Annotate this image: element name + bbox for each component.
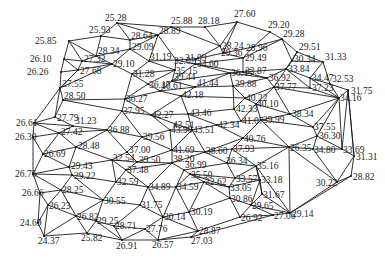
elevation-label: 29.65 xyxy=(252,201,274,211)
mesh-edge xyxy=(69,36,101,41)
elevation-label: 39.88 xyxy=(235,79,257,89)
elevation-label: 36.45 xyxy=(231,68,253,78)
elevation-label: 25.93 xyxy=(89,25,111,35)
mesh-edge xyxy=(61,70,78,72)
elevation-label: 39.99 xyxy=(263,115,285,125)
elevation-label: 25.82 xyxy=(81,233,103,243)
elevation-label: 27.32 xyxy=(84,54,106,64)
mesh-node xyxy=(266,77,268,79)
mesh-node xyxy=(129,48,131,50)
mesh-edge xyxy=(160,91,181,96)
mesh-node xyxy=(204,26,206,28)
mesh-node xyxy=(291,60,293,62)
elevation-label: 40.76 xyxy=(244,134,266,144)
elevation-label: 29.49 xyxy=(245,53,267,63)
elevation-label: 29.28 xyxy=(283,29,305,39)
mesh-node xyxy=(75,146,77,148)
mesh-node xyxy=(68,166,70,168)
mesh-edge xyxy=(101,36,130,40)
mesh-edge xyxy=(172,163,184,170)
elevation-label: 33.05 xyxy=(230,183,252,193)
elevation-label: 37.48 xyxy=(127,165,149,175)
elevation-label: 26.23 xyxy=(49,201,71,211)
elevation-label: 26.92 xyxy=(241,213,263,223)
mesh-edge xyxy=(237,22,270,32)
mesh-node xyxy=(188,211,190,213)
elevation-label: 25.88 xyxy=(171,16,193,26)
mesh-edge xyxy=(270,32,282,39)
elevation-label: 28.89 xyxy=(159,26,181,36)
elevation-label: 32.59 xyxy=(117,177,139,187)
mesh-node xyxy=(269,31,271,33)
elevation-label: 26.76 xyxy=(15,169,37,179)
elevation-label: 25.28 xyxy=(105,13,127,23)
elevation-label: 31.28 xyxy=(133,69,155,79)
elevation-label: 28.64 xyxy=(131,31,153,41)
mesh-edge xyxy=(282,39,297,52)
elevation-label: 39.50 xyxy=(139,155,161,165)
elevation-label: 28.87 xyxy=(199,226,221,236)
elevation-label: 34.89 xyxy=(149,182,171,192)
elevation-label: 29.22 xyxy=(74,171,96,181)
mesh-node xyxy=(58,132,60,134)
mesh-edge xyxy=(289,147,290,213)
elevation-label: 26.66 xyxy=(22,188,44,198)
elevation-label: 36.34 xyxy=(226,156,248,166)
elevation-label: 29.43 xyxy=(71,161,93,171)
mesh-node xyxy=(63,58,65,60)
elevation-label: 32.54 xyxy=(113,153,135,163)
elevation-label: 27.68 xyxy=(80,66,102,76)
elevation-label: 31.67 xyxy=(263,190,285,200)
elevation-label: 30.55 xyxy=(104,196,126,206)
elevation-label: 37.93 xyxy=(233,144,255,154)
mesh-edge xyxy=(60,72,61,88)
elevation-label: 31.19 xyxy=(150,52,172,62)
mesh-edge xyxy=(69,41,82,61)
mesh-node xyxy=(68,40,70,42)
mesh-edge xyxy=(87,221,96,233)
elevation-label: 26.61 xyxy=(16,118,38,128)
mesh-node xyxy=(59,87,61,89)
mesh-node xyxy=(353,155,355,157)
mesh-edge xyxy=(44,205,48,236)
elevation-label: 42.34 xyxy=(218,120,240,130)
elevation-label: 31.33 xyxy=(325,52,347,62)
elevation-label: 36.30 xyxy=(319,131,341,141)
mesh-edge xyxy=(112,160,116,182)
elevation-label: 26.57 xyxy=(152,240,174,250)
elevation-label: 34.16 xyxy=(340,93,362,103)
elevation-label: 27.06 xyxy=(274,211,296,221)
mesh-node xyxy=(219,45,221,47)
elevation-label: 30.86 xyxy=(231,194,253,204)
mesh-node xyxy=(347,89,349,91)
elevation-label: 28.48 xyxy=(78,141,100,151)
mesh-node xyxy=(81,60,83,62)
elevation-label: 26.10 xyxy=(30,54,52,64)
elevation-label: 30.19 xyxy=(191,207,213,217)
elevation-label: 36.88 xyxy=(108,125,130,135)
elevation-label: 34.59 xyxy=(177,182,199,192)
elevation-label: 31.23 xyxy=(75,116,97,126)
mesh-node xyxy=(232,85,234,87)
elevation-label: 24.37 xyxy=(38,236,60,246)
elevation-label: 26.26 xyxy=(27,67,49,77)
elevation-label: 29.51 xyxy=(299,42,321,52)
mesh-node xyxy=(54,116,56,118)
elevation-label: 28.71 xyxy=(115,221,137,231)
elevation-label: 37.95 xyxy=(123,106,145,116)
mesh-edge xyxy=(33,174,72,175)
mesh-node xyxy=(285,68,287,70)
elevation-label: 33.84 xyxy=(288,64,310,74)
elevation-label: 29.09 xyxy=(132,42,154,52)
elevation-label: 43.46 xyxy=(190,108,212,118)
elevation-label: 35.16 xyxy=(257,161,279,171)
elevation-label: 37.77 xyxy=(275,82,297,92)
elevation-label: 30.14 xyxy=(164,212,186,222)
elevation-label: 36.27 xyxy=(126,94,148,104)
elevation-label: 42.33 xyxy=(236,104,258,114)
mesh-node xyxy=(296,51,298,53)
elevation-label: 27.03 xyxy=(191,236,213,246)
mesh-node xyxy=(350,175,352,177)
elevation-label: 32.62 xyxy=(205,177,227,187)
mesh-edge xyxy=(282,39,292,61)
